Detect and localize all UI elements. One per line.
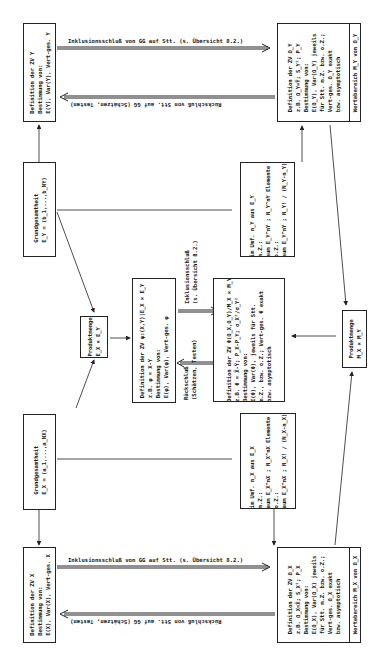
node-line: E(X), Var(X), Vert-ges. X — [44, 554, 52, 636]
node-line: Stt-raum E_X^nX ; N_X^nX Elemente — [264, 413, 272, 509]
node-line: Bestimmung von: — [36, 554, 44, 636]
node-line: E(Ω_X), Var(Ω_X) jeweils — [310, 556, 318, 634]
node-line: für Stt. m.Z. bzw. o.Z.; — [318, 33, 326, 111]
label-rueckschluss-x: Rückschluß von Stt. auf GG (Schätzen, Te… — [70, 618, 222, 625]
node-line: E(Y), Var(Y), Vert-ges. Y — [44, 32, 52, 114]
node-line: Grundgesamtheit — [32, 429, 40, 494]
node-stichprobe-x: Stt. im Umf. n_X aus E_X Stt. m.Z.: Stt-… — [240, 413, 296, 509]
node-line: Bestimmung von: — [241, 278, 249, 402]
label-inklusion-y: Inklusionsschluß von GG auf Stt. (s. Übe… — [68, 38, 243, 45]
node-line: m.Z., bzw. o.Z.; Vert-ges. Φ exakt — [257, 278, 265, 402]
node-line: Definition der ZV Ω_X — [286, 556, 294, 634]
node-line: Bestimmung von: — [302, 556, 310, 634]
node-line: Stt. im Umf. n_X aus E_X — [248, 413, 256, 509]
node-def-zv-phi: Definition der ZV φ:(X,Y)|E_X × E_Y z.B.… — [132, 278, 176, 403]
node-line: bzw. asymptotisch — [334, 556, 342, 634]
node-footer: Wertebereich M_Y von Ω_Y — [351, 33, 359, 111]
label-inklusion-x: Inklusionsschluß von GG auf Stt. (s. Übe… — [68, 557, 243, 564]
node-line: E_X × E_Y — [94, 317, 102, 356]
node-line: Stt. m.Z.: — [256, 413, 264, 509]
node-line: bzw. asymptotisch — [265, 278, 273, 402]
node-footer: Wertebereich M_X von Ω_X — [351, 556, 359, 634]
node-line: Stt. im Umf. n_Y aus E_Y — [248, 162, 256, 257]
label-rueck-mid-1: Rückschluß — [183, 366, 190, 400]
node-line: Bestimmung von: — [154, 283, 162, 397]
node-line: z.B. Φ = X̄-Ȳ; P_X-P_Y; σ_X²/σ_Y² — [233, 278, 241, 402]
node-line: Definition der ZV X — [28, 554, 36, 636]
label-inklusion-mid-1: Inklusionsschluß — [184, 250, 191, 304]
node-produktmenge-m: Produktmenge M_X × M_Y — [342, 310, 367, 368]
node-produktmenge-e: Produktmenge E_X × E_Y — [80, 316, 108, 358]
node-line: Bestimmung von: — [36, 32, 44, 114]
node-def-zv-y: Definition der ZV Y Bestimmung von: E(Y)… — [23, 23, 56, 122]
label-rueck-mid-2: (Schätzen, Testen) — [191, 339, 198, 400]
node-def-zv-phi-omega: Definition der ZV Φ(Ω_X,Ω_Y)/M_X × M_Y z… — [213, 278, 285, 402]
node-line: Stt-raum E_X^nX ; N_X! / (N_X-n_X)! El. — [280, 413, 288, 509]
node-grundgesamtheit-y: Grundgesamtheit E_Y = (b_1,...,b_NY) — [23, 162, 56, 257]
node-grundgesamtheit-x: Grundgesamtheit E_X = (a_1,...,a_NX) — [23, 414, 56, 510]
node-line: Stt-raum E_Y^nY ; N_Y^nY Elemente — [264, 162, 272, 257]
node-def-zv-x: Definition der ZV X Bestimmung von: E(X)… — [23, 547, 56, 643]
node-line: Stt. o.Z.: — [272, 162, 280, 257]
node-line: E(Φ), Var(Φ), jeweils für Stt. — [249, 278, 257, 402]
node-line: E_Y = (b_1,...,b_NY) — [40, 177, 48, 242]
node-line: Vert-ges. Ω_X exakt — [326, 556, 334, 634]
node-line: Definition der ZV Ω_Y — [286, 33, 294, 111]
node-line: z.B. φ = X-Y — [146, 283, 154, 397]
node-line: für Stt. m.Z. bzw. o.Z.; — [318, 556, 326, 634]
label-inklusion-mid-2: (s. Übersicht 8.2.) — [192, 240, 199, 304]
node-line: Definition der ZV φ:(X,Y)|E_X × E_Y — [138, 283, 146, 397]
node-line: Stt-raum E_Y^nY ; N_Y! / (N_Y-n_Y)! El. — [280, 162, 288, 257]
node-def-zv-omega-y: Definition der ZV Ω_Y z.B. Ω_Y=Ȳ; S_Y²; … — [277, 23, 361, 122]
node-line: bzw. asymptotisch — [334, 33, 342, 111]
node-line: Grundgesamtheit — [32, 177, 40, 242]
node-line: E(φ), Var(φ), Vert-ges. φ — [162, 283, 170, 397]
node-line: Stt. o.Z.: — [272, 413, 280, 509]
node-def-zv-omega-x: Definition der ZV Ω_X z.B. Ω_X=X̄; S_X²;… — [277, 547, 361, 643]
node-line: Stt. m.Z.: — [256, 162, 264, 257]
node-line: M_X × M_Y — [355, 319, 363, 358]
node-line: z.B. Ω_X=X̄; S_X²; P_X — [294, 556, 302, 634]
node-line: Bestimmung von: — [302, 33, 310, 111]
node-line: Definition der ZV Φ(Ω_X,Ω_Y)/M_X × M_Y — [225, 278, 233, 402]
label-rueckschluss-y: Rückschluß von Stt. auf GG (Schätzen, Te… — [70, 101, 222, 108]
node-line: Produktmenge — [347, 319, 355, 358]
node-line: Produktmenge — [86, 317, 94, 356]
node-line: z.B. Ω_Y=Ȳ; S_Y²; P_Y — [294, 33, 302, 111]
node-line: E(Ω_Y), Var(Ω_Y) jeweils — [310, 33, 318, 111]
node-line: E_X = (a_1,...,a_NX) — [40, 429, 48, 494]
node-line: Definition der ZV Y — [28, 32, 36, 114]
node-stichprobe-y: Stt. im Umf. n_Y aus E_Y Stt. m.Z.: Stt-… — [240, 162, 295, 257]
node-line: Vert-ges. Ω_Y exakt — [326, 33, 334, 111]
